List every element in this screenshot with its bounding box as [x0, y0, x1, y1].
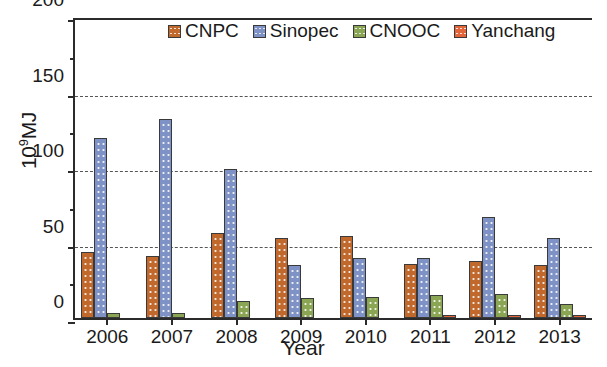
x-axis-tickmark [559, 318, 561, 325]
bar-cnooc-2010 [366, 297, 379, 318]
bar-sinopec-2011 [417, 258, 430, 318]
legend-label: CNPC [185, 20, 239, 42]
bar-cnpc-2010 [340, 236, 353, 318]
bar-sinopec-2008 [224, 169, 237, 318]
bar-group: 2010 [334, 20, 399, 318]
plot-area: 20062007200820092010201120122013 [73, 18, 592, 320]
bar-cnooc-2007 [172, 313, 185, 318]
legend-swatch-icon [353, 25, 366, 38]
x-axis-tickmark [300, 318, 302, 325]
bar-chart-figure: 109MJ 050100150200 200620072008200920102… [0, 0, 607, 367]
bar-group: 2013 [527, 20, 592, 318]
bar-sinopec-2010 [353, 258, 366, 318]
bar-group: 2012 [463, 20, 528, 318]
legend-label: Yanchang [471, 20, 555, 42]
bar-group: 2009 [269, 20, 334, 318]
bar-sinopec-2006 [94, 138, 107, 318]
bar-group: 2006 [75, 20, 140, 318]
bar-cnpc-2008 [211, 233, 224, 318]
y-axis-tickmark [68, 20, 75, 22]
y-axis-minor-tickmark [70, 209, 75, 211]
bar-yanchang-2012 [508, 315, 521, 318]
bars-container [269, 20, 334, 318]
x-axis-title: Year [0, 336, 607, 360]
bar-cnooc-2006 [107, 313, 120, 318]
bar-yanchang-2013 [573, 315, 586, 318]
y-axis-tickmark [68, 247, 75, 249]
chart-legend: CNPCSinopecCNOOCYanchang [168, 20, 555, 42]
bars-container [140, 20, 205, 318]
bar-group: 2008 [204, 20, 269, 318]
y-axis-tick-label: 200 [0, 0, 73, 11]
bar-sinopec-2013 [547, 238, 560, 318]
y-axis-tickmark [68, 171, 75, 173]
bar-cnpc-2012 [469, 261, 482, 318]
legend-item-cnpc[interactable]: CNPC [168, 20, 239, 42]
bar-group: 2007 [140, 20, 205, 318]
legend-swatch-icon [168, 25, 181, 38]
legend-swatch-icon [253, 25, 266, 38]
bars-container [75, 20, 140, 318]
legend-item-sinopec[interactable]: Sinopec [253, 20, 339, 42]
x-axis-tickmark [171, 318, 173, 325]
bars-container [463, 20, 528, 318]
y-axis-tick-label: 150 [0, 65, 73, 87]
x-axis-tickmark [106, 318, 108, 325]
y-axis-tick-label: 100 [0, 140, 73, 162]
x-axis-tickmark [494, 318, 496, 325]
bars-container [527, 20, 592, 318]
legend-label: CNOOC [370, 20, 441, 42]
legend-label: Sinopec [270, 20, 339, 42]
bar-cnooc-2008 [237, 301, 250, 318]
y-axis-minor-tickmark [70, 284, 75, 286]
bar-groups: 20062007200820092010201120122013 [75, 20, 592, 318]
y-axis-tickmark [68, 96, 75, 98]
y-axis-tick-label: 50 [0, 216, 73, 238]
bars-container [398, 20, 463, 318]
bar-cnpc-2011 [404, 264, 417, 318]
y-axis-minor-tickmark [70, 58, 75, 60]
bar-cnooc-2011 [430, 295, 443, 318]
bars-container [334, 20, 399, 318]
bar-sinopec-2012 [482, 217, 495, 318]
legend-swatch-icon [454, 25, 467, 38]
y-axis-tick-label: 0 [0, 291, 73, 313]
legend-item-yanchang[interactable]: Yanchang [454, 20, 555, 42]
x-axis-tickmark [236, 318, 238, 325]
bar-cnooc-2013 [560, 304, 573, 318]
y-axis-tickmark [68, 322, 75, 324]
y-axis-ticks: 050100150200 [0, 0, 73, 302]
bar-cnpc-2013 [534, 265, 547, 318]
bar-cnooc-2009 [301, 298, 314, 318]
x-axis-tickmark [365, 318, 367, 325]
bar-sinopec-2007 [159, 119, 172, 318]
bars-container [204, 20, 269, 318]
bar-cnpc-2009 [275, 238, 288, 318]
bar-group: 2011 [398, 20, 463, 318]
bar-sinopec-2009 [288, 265, 301, 318]
y-axis-minor-tickmark [70, 133, 75, 135]
bar-cnpc-2006 [81, 252, 94, 318]
x-axis-tickmark [429, 318, 431, 325]
legend-item-cnooc[interactable]: CNOOC [353, 20, 441, 42]
bar-yanchang-2011 [443, 315, 456, 318]
bar-cnooc-2012 [495, 294, 508, 318]
bar-cnpc-2007 [146, 256, 159, 318]
